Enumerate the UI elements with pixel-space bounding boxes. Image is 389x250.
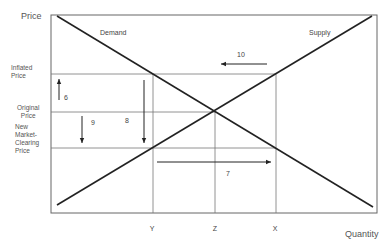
arrow-10-label: 10 bbox=[237, 51, 245, 59]
supply-demand-diagram bbox=[0, 0, 389, 250]
new-price-label-line2: Market- bbox=[15, 131, 39, 139]
original-price-label-line1: Original bbox=[17, 104, 39, 112]
quantity-y-label: Y bbox=[150, 225, 155, 233]
plot-frame bbox=[51, 15, 377, 213]
new-price-label-line1: New bbox=[15, 123, 39, 131]
quantity-x-label: X bbox=[273, 225, 278, 233]
arrow-6-label: 6 bbox=[64, 94, 68, 102]
demand-label: Demand bbox=[100, 29, 126, 37]
inflated-price-label-line1: Inflated bbox=[11, 64, 32, 72]
arrow-8-label: 8 bbox=[125, 117, 129, 125]
supply-label: Supply bbox=[309, 29, 330, 37]
x-axis-label: Quantity bbox=[345, 230, 379, 238]
arrow-9-label: 9 bbox=[91, 119, 95, 127]
arrow-7-label: 7 bbox=[226, 170, 230, 178]
new-price-label: New Market- Clearing Price bbox=[15, 123, 39, 155]
new-price-label-line3: Clearing bbox=[15, 139, 39, 147]
inflated-price-label-line2: Price bbox=[11, 72, 32, 80]
inflated-price-label: Inflated Price bbox=[11, 64, 32, 80]
original-price-label: Original Price bbox=[17, 104, 39, 120]
quantity-z-label: Z bbox=[213, 225, 217, 233]
y-axis-label: Price bbox=[21, 12, 42, 20]
original-price-label-line2: Price bbox=[17, 112, 39, 120]
new-price-label-line4: Price bbox=[15, 147, 39, 155]
